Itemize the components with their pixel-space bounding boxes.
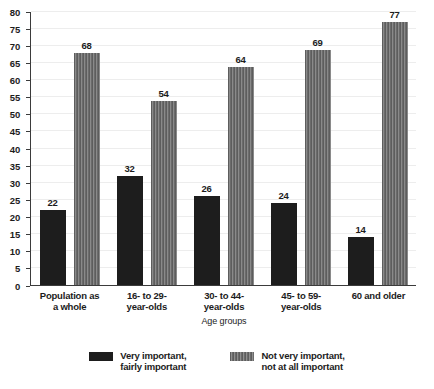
y-axis-tick: 5 <box>26 268 30 269</box>
x-axis-line <box>30 285 416 286</box>
y-axis-tick: 55 <box>26 97 30 98</box>
bar[interactable]: 14 <box>348 237 374 285</box>
y-axis-tick: 45 <box>26 131 30 132</box>
y-axis-tick: 25 <box>26 200 30 201</box>
y-axis-tick: 50 <box>26 114 30 115</box>
bar[interactable]: 24 <box>271 203 297 285</box>
y-axis-tick-label: 65 <box>10 57 20 68</box>
legend: Very important,fairly importantNot very … <box>0 350 434 372</box>
x-axis-category-labels: Population asa whole16- to 29-year-olds3… <box>31 290 417 312</box>
y-axis-tick-label: 50 <box>10 109 20 120</box>
y-axis-tick: 70 <box>26 46 30 47</box>
legend-item[interactable]: Not very important,not at all important <box>230 350 344 372</box>
bar[interactable]: 77 <box>382 22 408 285</box>
bar-chart: 05101520253035404550556065707580 2268325… <box>0 0 434 389</box>
bar-value-label: 54 <box>158 88 168 99</box>
y-axis-tick-label: 60 <box>10 75 20 86</box>
y-axis-tick: 80 <box>26 12 30 13</box>
y-axis-tick: 35 <box>26 166 30 167</box>
bar-value-label: 69 <box>312 37 322 48</box>
y-axis-tick: 60 <box>26 80 30 81</box>
x-axis-category-label: Population asa whole <box>31 290 108 312</box>
y-axis-tick-label: 5 <box>15 263 20 274</box>
bar[interactable]: 68 <box>74 53 100 285</box>
bar[interactable]: 64 <box>228 67 254 285</box>
y-axis-tick: 15 <box>26 234 30 235</box>
x-axis-title: Age groups <box>31 316 417 326</box>
legend-swatch-icon <box>89 352 113 361</box>
y-axis-tick-label: 0 <box>15 280 20 291</box>
bar[interactable]: 32 <box>117 176 143 285</box>
y-axis-tick-label: 70 <box>10 40 20 51</box>
bar[interactable]: 69 <box>305 50 331 285</box>
bar-value-label: 24 <box>278 190 288 201</box>
bar-value-label: 68 <box>81 40 91 51</box>
y-axis-tick-label: 75 <box>10 23 20 34</box>
y-axis-tick: 65 <box>26 63 30 64</box>
bar-value-label: 77 <box>389 9 399 20</box>
y-axis-tick-label: 30 <box>10 177 20 188</box>
y-axis-tick-label: 20 <box>10 212 20 223</box>
bar[interactable]: 54 <box>151 101 177 285</box>
bar-group: 1477 <box>339 12 416 285</box>
x-axis-category-label: 45- to 59-year-olds <box>263 290 340 312</box>
bar[interactable]: 26 <box>194 196 220 285</box>
bar-group: 2469 <box>262 12 339 285</box>
bar-value-label: 64 <box>235 54 245 65</box>
y-axis-tick-label: 40 <box>10 143 20 154</box>
bar-value-label: 26 <box>201 183 211 194</box>
bar-value-label: 22 <box>47 197 57 208</box>
y-axis-tick: 0 <box>26 286 30 287</box>
y-axis-tick: 30 <box>26 183 30 184</box>
plot-area: 05101520253035404550556065707580 2268325… <box>30 12 416 286</box>
x-axis-category-label: 60 and older <box>340 290 417 312</box>
x-axis-category-label: 30- to 44-year-olds <box>185 290 262 312</box>
bar-groups: 22683254266424691477 <box>31 12 416 285</box>
y-axis-tick-label: 35 <box>10 160 20 171</box>
bar-group: 2664 <box>185 12 262 285</box>
legend-swatch-icon <box>230 352 254 361</box>
bar-value-label: 32 <box>124 163 134 174</box>
y-axis-tick: 20 <box>26 217 30 218</box>
y-axis-tick: 40 <box>26 149 30 150</box>
legend-item[interactable]: Very important,fairly important <box>89 350 186 372</box>
bar-group: 3254 <box>108 12 185 285</box>
y-axis-tick-label: 55 <box>10 92 20 103</box>
bar-group: 2268 <box>31 12 108 285</box>
y-axis-tick-label: 15 <box>10 229 20 240</box>
y-axis-tick-label: 80 <box>10 6 20 17</box>
legend-label: Not very important,not at all important <box>261 350 344 372</box>
y-axis-tick-label: 25 <box>10 194 20 205</box>
y-axis-tick: 10 <box>26 251 30 252</box>
x-axis-category-label: 16- to 29-year-olds <box>108 290 185 312</box>
bar[interactable]: 22 <box>40 210 66 285</box>
y-axis-tick: 75 <box>26 29 30 30</box>
bar-value-label: 14 <box>355 224 365 235</box>
y-axis-tick-label: 10 <box>10 246 20 257</box>
y-axis-tick-label: 45 <box>10 126 20 137</box>
legend-label: Very important,fairly important <box>120 350 186 372</box>
